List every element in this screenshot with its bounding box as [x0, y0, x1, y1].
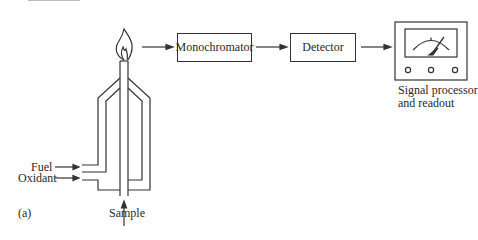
sample-label: Sample [109, 207, 145, 220]
burner-central-tube [120, 61, 128, 196]
detector-label: Detector [302, 40, 343, 55]
burner-inner-wall [82, 88, 142, 190]
panel-label: (a) [18, 207, 31, 220]
detector-box: Detector [290, 33, 356, 62]
flame-icon [116, 29, 132, 60]
oxidant-label: Oxidant [18, 172, 57, 185]
monochromator-label: Monochromator [176, 40, 254, 55]
flow-arrow-monochromator-to-detector [256, 45, 287, 50]
fuel-arrow [55, 165, 79, 170]
oxidant-arrow [55, 176, 79, 181]
burner-outer-wall [82, 78, 150, 190]
flow-arrow-detector-to-readout [361, 45, 391, 50]
flow-arrow-flame-to-monochromator [142, 45, 173, 50]
readout-label-line2: and readout [398, 97, 454, 110]
monochromator-box: Monochromator [177, 33, 252, 62]
readout-meter-icon [395, 22, 467, 80]
